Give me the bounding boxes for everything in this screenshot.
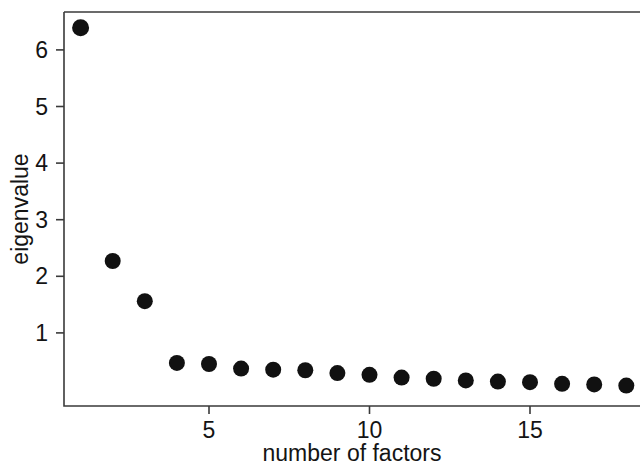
data-point [618,378,634,394]
data-points [72,19,634,393]
data-point [554,376,570,392]
data-point [329,365,345,381]
data-point [586,376,602,392]
y-tick-label: 6 [35,37,48,63]
data-point [522,374,538,390]
data-point [490,374,506,390]
data-point [169,355,185,371]
y-tick-label: 1 [35,320,48,346]
data-point [265,362,281,378]
data-point [137,293,153,309]
data-point [72,19,89,36]
data-point [201,356,217,372]
x-tick-label: 15 [517,417,543,443]
y-tick-label: 3 [35,207,48,233]
y-tick-label: 5 [35,94,48,120]
data-point [394,370,410,386]
plot-canvas: 123456 51015 number of factors eigenvalu… [0,0,640,467]
data-point [297,362,313,378]
plot-frame [64,12,640,406]
y-axis-ticks [56,50,64,333]
y-tick-label: 2 [35,263,48,289]
y-axis-tick-labels: 123456 [35,37,48,346]
data-point [233,361,249,377]
x-axis-ticks [209,406,530,414]
data-point [362,367,378,383]
data-point [458,372,474,388]
data-point [105,253,121,269]
data-point [426,371,442,387]
x-tick-label: 5 [203,417,216,443]
scree-plot-figure: 123456 51015 number of factors eigenvalu… [0,0,640,467]
y-axis-title: eigenvalue [7,153,33,264]
y-tick-label: 4 [35,150,48,176]
x-axis-title: number of factors [263,440,442,466]
